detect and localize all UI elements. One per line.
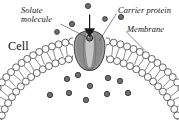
lipid-tail bbox=[0, 102, 2, 107]
lipid-tail bbox=[155, 70, 161, 78]
lipid-head-outer bbox=[36, 48, 43, 55]
lipid-head-outer bbox=[110, 39, 117, 46]
lipid-tail bbox=[66, 46, 67, 56]
lipid-head-inner bbox=[174, 112, 179, 119]
label-carrier-protein: Carrier protein bbox=[118, 7, 171, 16]
lipid-head-inner bbox=[114, 58, 121, 65]
label-solute-line2: molecule bbox=[21, 16, 52, 25]
solute-molecule-intracellular bbox=[105, 75, 110, 80]
lipid-tail bbox=[123, 50, 125, 59]
lipid-tail bbox=[53, 50, 55, 59]
lipid-tail bbox=[171, 90, 178, 96]
label-solute-molecule: Solute molecule bbox=[21, 7, 52, 24]
lipid-tail bbox=[149, 66, 156, 73]
lipid-head-inner bbox=[107, 56, 114, 63]
lipid-head-outer bbox=[174, 79, 179, 86]
lipid-tail bbox=[116, 48, 120, 57]
lipid-tail bbox=[127, 52, 132, 60]
solute-molecule-extracellular bbox=[85, 3, 90, 8]
lipid-tail bbox=[24, 66, 31, 73]
lipid-head-outer bbox=[62, 39, 69, 46]
lipid-tail bbox=[41, 55, 44, 64]
solute-molecule-intracellular bbox=[125, 90, 130, 95]
solute-molecule-intracellular bbox=[47, 92, 52, 97]
lipid-head-inner bbox=[120, 60, 127, 67]
label-cell: Cell bbox=[8, 40, 29, 52]
lipid-tail bbox=[47, 52, 52, 60]
lipid-head-outer bbox=[130, 45, 137, 52]
lipid-tail bbox=[5, 85, 13, 90]
solute-molecule-intracellular bbox=[117, 78, 122, 83]
lipid-tail bbox=[0, 96, 6, 100]
lipid-tail bbox=[135, 55, 138, 64]
lipid-head-outer bbox=[49, 43, 56, 50]
lipid-tail bbox=[163, 80, 170, 87]
lipid-head-outer bbox=[55, 41, 62, 48]
lipid-tail bbox=[112, 46, 113, 56]
lipid-tail bbox=[177, 102, 179, 107]
solute-molecule-intracellular bbox=[87, 83, 92, 88]
lipid-head-inner bbox=[52, 60, 59, 67]
lipid-tail bbox=[1, 90, 8, 96]
lipid-head-inner bbox=[58, 58, 65, 65]
membrane-transport-figure: Solute molecule Carrier protein Membrane… bbox=[0, 0, 179, 120]
solute-molecule-intracellular bbox=[64, 76, 69, 81]
lipid-tail bbox=[60, 48, 64, 57]
lipid-head-inner bbox=[0, 112, 5, 119]
label-membrane: Membrane bbox=[127, 26, 164, 35]
lipid-head-inner bbox=[65, 56, 72, 63]
lipid-tail bbox=[19, 70, 25, 78]
solutes-intracellular bbox=[47, 72, 130, 102]
solute-molecule-intracellular bbox=[66, 90, 71, 95]
carrier-leader-line bbox=[99, 14, 117, 42]
lipid-tail bbox=[166, 85, 174, 90]
lipid-tail bbox=[138, 58, 144, 66]
lipid-tail bbox=[29, 62, 34, 71]
solute-molecule-extracellular bbox=[103, 17, 108, 22]
lipid-head-outer bbox=[123, 43, 130, 50]
lipid-tail bbox=[173, 96, 179, 100]
lipid-head-inner bbox=[171, 106, 178, 113]
solute-molecule-intracellular bbox=[104, 91, 109, 96]
lipid-tail bbox=[14, 75, 21, 81]
solute-molecule-intracellular bbox=[75, 72, 80, 77]
lipid-tail bbox=[158, 75, 165, 81]
lipid-tail bbox=[35, 58, 41, 66]
lipid-tail bbox=[145, 62, 150, 71]
lipid-head-inner bbox=[45, 63, 52, 70]
lipid-head-outer bbox=[117, 41, 124, 48]
solute-molecule-intracellular bbox=[83, 97, 88, 102]
label-solute-line1: Solute bbox=[21, 6, 43, 15]
solute-molecule-extracellular bbox=[55, 30, 60, 35]
lipid-head-outer bbox=[42, 45, 49, 52]
lipid-tail bbox=[9, 80, 16, 87]
solute-molecule-extracellular bbox=[69, 21, 74, 26]
